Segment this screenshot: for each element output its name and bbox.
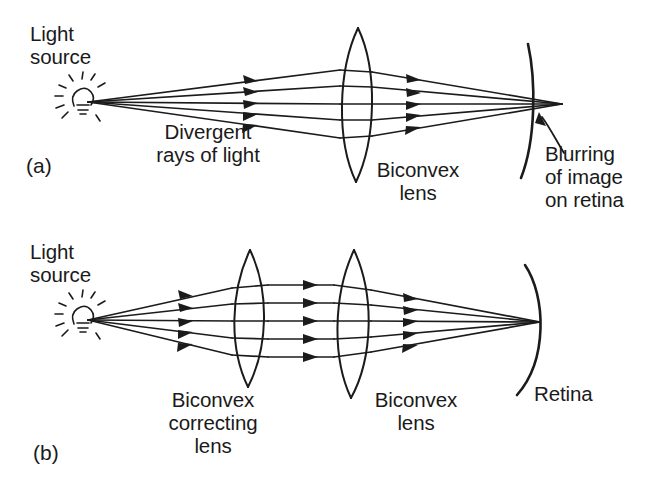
ray-arrowheads-a-refracted xyxy=(405,74,421,135)
rays-through-lens-a xyxy=(340,70,372,138)
ray-arrowheads-b-parallel xyxy=(303,280,318,362)
diagram-canvas xyxy=(0,0,653,486)
biconvex-lens-label-a: Biconvex lens xyxy=(358,158,478,204)
panel-b-graphics xyxy=(55,250,541,398)
light-bulb-icon xyxy=(55,290,105,339)
divergent-rays-b xyxy=(88,288,232,355)
panel-label-b: (b) xyxy=(33,441,59,465)
light-source-label-b: Light source xyxy=(30,240,91,286)
biconvex-lens-label-b: Biconvex lens xyxy=(356,388,476,434)
light-source-label-a: Light source xyxy=(30,22,91,68)
biconvex-correcting-lens-label-b: Biconvex correcting lens xyxy=(133,388,293,457)
retina-label-b: Retina xyxy=(534,382,593,405)
biconvex-lens-b xyxy=(337,250,368,398)
convergent-rays-b xyxy=(371,290,540,352)
parallel-rays-b xyxy=(268,285,334,357)
retina-arc-b xyxy=(517,265,541,395)
light-bulb-icon xyxy=(55,72,105,121)
blurring-label-a: Blurring of image on retina xyxy=(545,142,624,211)
panel-label-a: (a) xyxy=(26,154,52,178)
biconvex-correcting-lens-b xyxy=(234,250,264,387)
divergent-rays-label-a: Divergent rays of light xyxy=(128,120,288,166)
optics-figure: Light source Divergent rays of light Bic… xyxy=(0,0,653,486)
